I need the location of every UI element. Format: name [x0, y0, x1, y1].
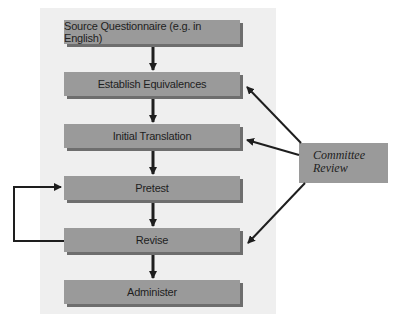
step-source-questionnaire: Source Questionnaire (e.g. in English) [64, 20, 240, 44]
step-pretest: Pretest [64, 176, 240, 200]
step-label: Revise [136, 234, 168, 246]
committee-label-line2: Review [313, 162, 388, 175]
step-establish-equivalences: Establish Equivalences [64, 72, 240, 96]
step-label: Initial Translation [113, 130, 192, 142]
step-administer: Administer [64, 280, 240, 304]
step-label: Administer [127, 286, 177, 298]
committee-review-node: Committee Review [299, 143, 388, 183]
step-label: Source Questionnaire (e.g. in English) [64, 20, 240, 44]
step-revise: Revise [64, 228, 240, 252]
step-label: Establish Equivalences [98, 78, 207, 90]
step-initial-translation: Initial Translation [64, 124, 240, 148]
diagram-panel [40, 8, 276, 314]
step-label: Pretest [135, 182, 168, 194]
